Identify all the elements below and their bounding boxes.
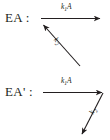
rate-suffix: A (67, 2, 72, 11)
rate-suffix: A (67, 76, 72, 85)
kinetics-scheme-figure: EA : EA' : k1A k2 k1A k2 (0, 0, 110, 140)
arrow-group (0, 0, 110, 140)
reverse-arrow-row1 (44, 25, 81, 66)
rate-constant-label-forward-row2: k1A (61, 77, 72, 85)
rate-subscript: 1 (64, 6, 67, 12)
rate-constant-label-forward-row1: k1A (61, 3, 72, 11)
rate-subscript: 1 (64, 80, 67, 86)
